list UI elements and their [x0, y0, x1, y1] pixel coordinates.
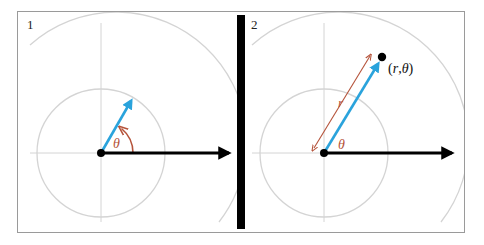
- polar-point: [378, 53, 386, 61]
- angle-theta-label: θ: [113, 136, 120, 151]
- point-coordinates-label: (r,θ): [388, 61, 414, 77]
- polar-coordinates-figure: 1 θ 2 θ r (r,θ): [0, 0, 484, 245]
- angle-theta-label: θ: [338, 137, 345, 152]
- paren-close: ): [409, 61, 414, 77]
- panel-1-number: 1: [27, 17, 34, 32]
- panel-2-number: 2: [251, 17, 258, 32]
- panel-divider: [237, 15, 245, 229]
- origin-point: [97, 149, 105, 157]
- origin-point: [320, 149, 328, 157]
